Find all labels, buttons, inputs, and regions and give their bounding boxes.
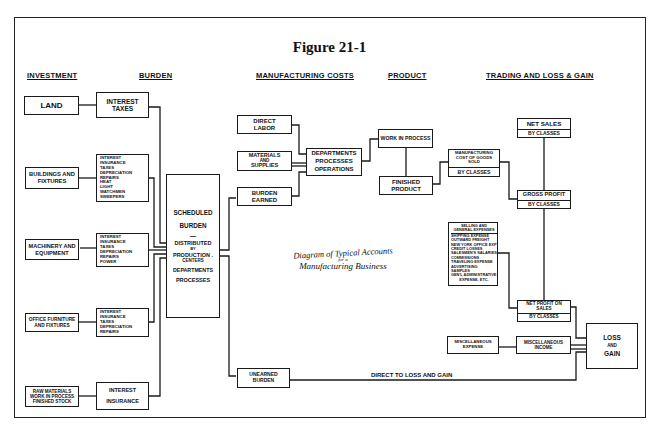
account-buildings-fixtures: BUILDINGS AND FIXTURES bbox=[25, 167, 79, 189]
finished-product: FINISHED PRODUCT bbox=[379, 176, 433, 195]
box-text: FIXTURES bbox=[38, 178, 67, 185]
burden-land: INTEREST TAXES bbox=[96, 92, 149, 118]
unearned-burden: UNEARNED BURDEN bbox=[237, 368, 290, 388]
expense-item: EXPENSE, ETC. bbox=[459, 278, 488, 282]
box-text: EARNED bbox=[252, 197, 277, 204]
box-text: EXPENSE bbox=[463, 345, 483, 350]
box-subtext: BY CLASSES bbox=[518, 200, 570, 208]
box-subtext: BY CLASSES bbox=[449, 167, 499, 175]
box-text: NET SALES bbox=[527, 120, 562, 127]
box-text: INCOME bbox=[535, 345, 553, 350]
box-text: BURDEN bbox=[253, 378, 274, 384]
box-text: REPAIRS bbox=[100, 330, 119, 335]
diagram-title: Diagram of Typical Accounts for a Manufa… bbox=[258, 248, 428, 271]
box-text: PROCESSES bbox=[176, 277, 210, 284]
box-text: GAIN bbox=[604, 349, 620, 359]
box-text: POWER bbox=[100, 260, 116, 265]
miscellaneous-expense: MISCELLANEOUS EXPENSE bbox=[447, 336, 499, 354]
divider-dash: — bbox=[190, 232, 196, 240]
account-machinery-equipment: MACHINERY AND EQUIPMENT bbox=[25, 239, 79, 260]
box-text: SOLD bbox=[468, 160, 480, 165]
scheduled-burden: SCHEDULED BURDEN — DISTRIBUTED BY PRODUC… bbox=[166, 174, 220, 318]
box-text: SCHEDULED bbox=[173, 209, 212, 217]
miscellaneous-income: MISCELLANEOUS INCOME bbox=[516, 336, 571, 354]
work-in-process: WORK IN PROCESS bbox=[378, 129, 433, 148]
account-office-furniture: OFFICE FURNITURE AND FIXTURES bbox=[25, 313, 79, 332]
gross-profit: GROSS PROFIT BY CLASSES bbox=[517, 190, 571, 209]
box-text: OPERATIONS bbox=[314, 166, 353, 174]
materials-supplies: MATERIALS AND SUPPLIES bbox=[237, 151, 292, 171]
box-subtext: BY CLASSES bbox=[518, 129, 570, 137]
net-sales: NET SALES BY CLASSES bbox=[517, 118, 571, 138]
box-text: SWEEPERS bbox=[100, 195, 124, 200]
box-text: SUPPLIES bbox=[251, 163, 278, 169]
burden-machinery: INTEREST INSURANCE TAXES DEPRECIATION RE… bbox=[96, 233, 149, 267]
box-text: CENTERS bbox=[182, 258, 204, 263]
box-text: AND FIXTURES bbox=[34, 323, 69, 329]
burden-buildings: INTEREST INSURANCE TAXES DEPRECIATION RE… bbox=[96, 154, 149, 202]
loss-and-gain: LOSS AND GAIN bbox=[586, 323, 638, 369]
box-text: WORK IN PROCESS bbox=[381, 136, 431, 142]
departments-processes-operations: DEPARTMENTS PROCESSES OPERATIONS bbox=[306, 148, 362, 176]
box-text: SALES bbox=[536, 307, 551, 312]
burden-earned: BURDEN EARNED bbox=[237, 187, 292, 206]
box-text: DEPARTMENTS bbox=[311, 150, 356, 158]
box-text: INSURANCE bbox=[106, 396, 139, 407]
box-text: EQUIPMENT bbox=[35, 250, 68, 256]
box-text: PRODUCTION . bbox=[173, 252, 213, 259]
box-text: TAXES bbox=[112, 105, 133, 112]
box-text: BURDEN bbox=[180, 222, 207, 230]
box-text: INTEREST bbox=[109, 385, 136, 396]
burden-office: INTEREST INSURANCE TAXES DEPRECIATION RE… bbox=[96, 308, 149, 337]
net-profit-on-sales: NET PROFIT ON SALES BY CLASSES bbox=[517, 300, 571, 322]
box-text: DEPARTMENTS bbox=[173, 267, 213, 273]
manufacturing-cost-goods-sold: MANUFACTURING COST OF GOODS SOLD BY CLAS… bbox=[448, 149, 500, 177]
box-text: LABOR bbox=[254, 125, 275, 132]
box-text: FINISHED STOCK bbox=[33, 399, 72, 404]
box-text: PROCESSES bbox=[315, 158, 352, 166]
box-text: AND bbox=[607, 343, 617, 350]
selling-general-expenses: SELLING AND GENERAL EXPENSES SHIPPING EX… bbox=[448, 222, 498, 286]
box-text: INTEREST bbox=[106, 98, 138, 105]
account-land: LAND bbox=[24, 96, 79, 115]
box-text: LAND bbox=[40, 101, 62, 110]
box-text: BURDEN bbox=[252, 190, 278, 197]
direct-labor: DIRECT LABOR bbox=[237, 115, 292, 134]
box-subtext: BY CLASSES bbox=[518, 313, 570, 320]
diagram-title-line3: Manufacturing Business bbox=[258, 261, 428, 271]
box-text: LOSS bbox=[603, 333, 621, 343]
direct-to-loss-gain-label: DIRECT TO LOSS AND GAIN bbox=[371, 372, 452, 378]
account-raw-materials: RAW MATERIALS WORK IN PROCESS FINISHED S… bbox=[25, 386, 79, 407]
connector-lines bbox=[0, 0, 659, 433]
box-text: PRODUCT bbox=[391, 186, 421, 193]
box-text: FINISHED bbox=[392, 179, 420, 186]
box-text: GROSS PROFIT bbox=[523, 191, 565, 197]
burden-raw-materials: INTEREST INSURANCE bbox=[96, 382, 149, 410]
box-text: BUILDINGS AND bbox=[29, 171, 75, 178]
box-text: DIRECT bbox=[253, 118, 275, 125]
